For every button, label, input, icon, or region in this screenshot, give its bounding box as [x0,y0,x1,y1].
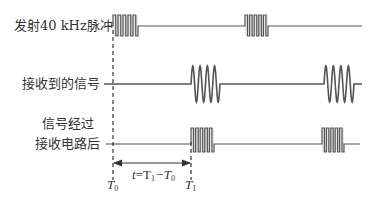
interval-eq: =T [136,167,151,182]
receive-signal-line [104,66,362,102]
processed-signal-line [106,128,360,152]
timing-diagram: 发射40 kHz脉冲 接收到的信号 信号经过 接收电路后 t=T1−T0 T0 … [0,0,380,200]
processed-waveform [106,128,360,152]
receive-waveform [104,66,362,102]
interval-label: t=T1−T0 [132,168,175,186]
transmit-label: 发射40 kHz脉冲 [14,18,113,34]
transmit-signal-line [107,15,362,36]
processed-label-line2: 接收电路后 [35,136,100,152]
processed-label-line1: 信号经过 [42,116,94,132]
t0-label: T0 [107,178,118,196]
t1-label: T1 [185,178,196,196]
receive-label: 接收到的信号 [22,76,100,92]
t0-sub: 0 [114,184,118,193]
interval-minus: −T [155,167,171,182]
t1-sub: 1 [192,184,196,193]
interval-sub0: 0 [171,174,175,183]
transmit-waveform [107,15,362,36]
